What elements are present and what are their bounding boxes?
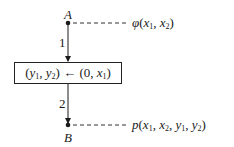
p-symbol: p (132, 117, 139, 132)
phi-symbol: φ (132, 15, 139, 30)
assignment-box: (y1, y2) ← (0, x1) (14, 62, 122, 84)
node-a-annotation: φ(x1, x2) (132, 16, 174, 31)
edge-1-label: 1 (59, 36, 66, 49)
node-b-annotation: p(x1, x2, y1, y2) (132, 118, 206, 133)
assignment-text: (y1, y2) ← (0, x1) (25, 66, 111, 81)
node-a-label: A (64, 8, 72, 21)
assign-arrow: ← (63, 65, 76, 80)
node-b-label: B (64, 131, 72, 144)
node-b-dot (66, 123, 71, 128)
edge-2-label: 2 (59, 97, 66, 110)
